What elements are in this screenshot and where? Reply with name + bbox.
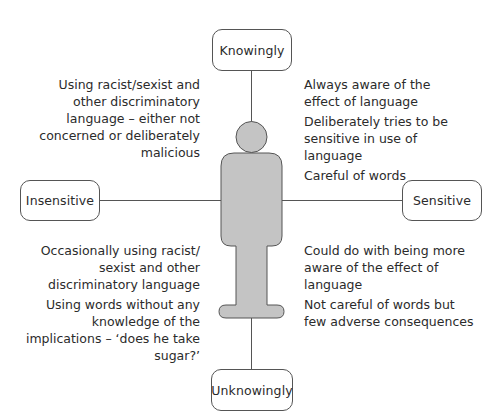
axis-label-text: Unknowingly xyxy=(211,383,292,398)
quadrant-paragraph: Careful of words xyxy=(304,167,464,184)
quadrant-paragraph: Always aware of the effect of language xyxy=(304,76,464,110)
person-body xyxy=(219,153,284,318)
quadrant-paragraph: Deliberately tries to be sensitive in us… xyxy=(304,113,464,164)
person-figure-icon xyxy=(219,122,284,319)
axis-label-text: Sensitive xyxy=(413,193,471,208)
axis-label-knowingly: Knowingly xyxy=(212,29,292,71)
axis-label-text: Knowingly xyxy=(219,43,284,58)
axis-label-unknowingly: Unknowingly xyxy=(211,369,293,411)
quadrant-paragraph: Using words without any knowledge of the… xyxy=(20,296,200,364)
attitude-quadrant-diagram: Knowingly Unknowingly Insensitive Sensit… xyxy=(0,0,503,418)
quadrant-unknowingly-sensitive: Could do with being more aware of the ef… xyxy=(304,242,474,333)
quadrant-unknowingly-insensitive: Occasionally using racist/ sexist and ot… xyxy=(20,242,200,367)
quadrant-paragraph: Occasionally using racist/ sexist and ot… xyxy=(20,242,200,293)
quadrant-paragraph: Not careful of words but few adverse con… xyxy=(304,296,474,330)
quadrant-paragraph: Could do with being more aware of the ef… xyxy=(304,242,474,293)
quadrant-paragraph: Using racist/sexist and other discrimina… xyxy=(28,76,200,161)
axis-label-text: Insensitive xyxy=(26,193,94,208)
quadrant-knowingly-insensitive: Using racist/sexist and other discrimina… xyxy=(28,76,200,164)
axis-label-insensitive: Insensitive xyxy=(20,180,100,221)
person-head xyxy=(236,122,267,153)
quadrant-knowingly-sensitive: Always aware of the effect of language D… xyxy=(304,76,464,187)
